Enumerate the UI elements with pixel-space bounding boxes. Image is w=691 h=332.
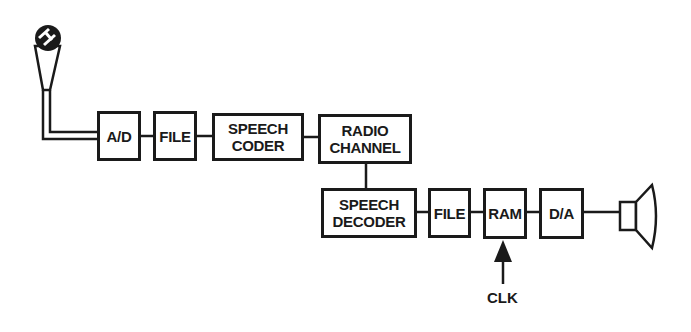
clock-label: CLK [487,289,518,306]
block-label-line-2: CHANNEL [329,139,400,156]
block-label: A/D [107,128,132,145]
block-label: RAM [488,205,521,222]
block-label-line-1: RADIO [342,122,389,139]
block-label: FILE [434,205,465,222]
block-speech-decoder: SPEECH DECODER [321,188,417,238]
block-label-line-1: SPEECH [228,120,288,137]
microphone-icon [35,25,97,139]
block-label: FILE [159,128,190,145]
block-ram: RAM [483,188,527,239]
speaker-icon [620,185,656,248]
clock-arrow-icon [494,240,512,262]
block-label-line-2: CODER [232,137,285,154]
diagram-lines [0,0,691,332]
block-label-line-1: SPEECH [339,196,399,213]
block-label-line-2: DECODER [333,213,406,230]
block-ad: A/D [97,111,141,161]
block-label: D/A [549,205,574,222]
block-file-1: FILE [153,111,197,161]
block-da: D/A [539,188,584,239]
block-speech-coder: SPEECH CODER [212,113,304,161]
block-radio-channel: RADIO CHANNEL [318,114,412,164]
block-file-2: FILE [428,188,471,238]
